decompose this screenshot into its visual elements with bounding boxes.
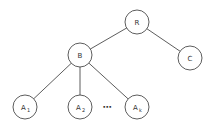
node-label: A xyxy=(21,104,26,112)
node-label: R xyxy=(135,19,140,27)
edges xyxy=(25,22,190,107)
node-ak: Ak xyxy=(125,95,149,119)
node-label: A xyxy=(133,104,138,112)
ellipsis: ⋯ xyxy=(103,102,112,112)
node-a2: A2 xyxy=(68,95,92,119)
node-subscript: 1 xyxy=(27,107,30,113)
node-r: R xyxy=(125,10,149,34)
node-b: B xyxy=(68,43,92,67)
node-c: C xyxy=(178,46,202,70)
node-label: A xyxy=(76,104,81,112)
tree-diagram: RBCA1A2Ak ⋯ xyxy=(0,0,217,130)
node-subscript: k xyxy=(139,107,142,113)
node-label: B xyxy=(78,52,83,60)
node-label: C xyxy=(188,55,193,63)
node-subscript: 2 xyxy=(82,107,85,113)
node-a1: A1 xyxy=(13,95,37,119)
